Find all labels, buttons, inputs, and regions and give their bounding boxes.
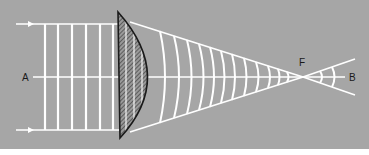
label-f: F xyxy=(299,57,305,68)
diagram-background xyxy=(0,0,369,149)
label-b: B xyxy=(349,72,356,83)
diagram-canvas: A F B xyxy=(0,0,369,155)
lens-diagram: A F B xyxy=(0,0,369,155)
label-a: A xyxy=(22,72,29,83)
